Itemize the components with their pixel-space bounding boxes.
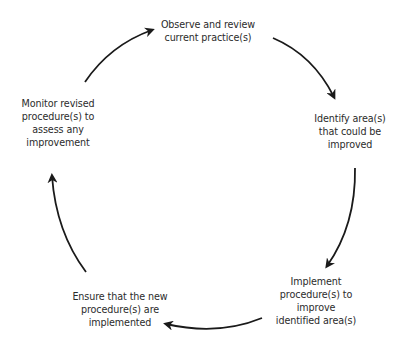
arrow-identify-to-implement (327, 168, 355, 266)
step-ensure-implemented: Ensure that the new procedure(s) are imp… (62, 290, 178, 329)
arrow-observe-to-identify (273, 38, 334, 97)
arrow-implement-to-ensure (166, 318, 262, 329)
step-observe-review: Observe and review current practice(s) (148, 18, 268, 44)
step-monitor-revised: Monitor revised procedure(s) to assess a… (10, 97, 106, 149)
step-implement-procedures: Implement procedure(s) to improve identi… (268, 275, 364, 327)
improvement-cycle-diagram: Observe and review current practice(s) I… (0, 0, 398, 346)
arrow-monitor-to-observe (85, 30, 152, 82)
step-identify-areas: Identify area(s) that could be improved (308, 112, 392, 151)
arrow-ensure-to-monitor (52, 176, 86, 272)
